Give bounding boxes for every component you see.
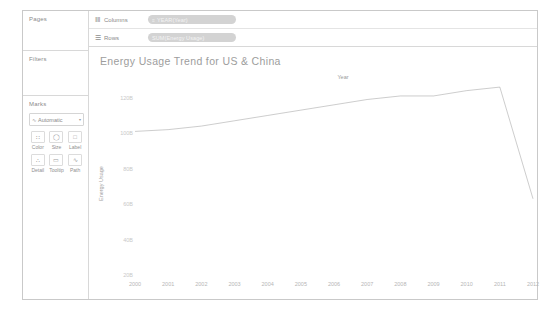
- rows-shelf-label: Rows: [104, 35, 148, 41]
- marks-button-path[interactable]: ∿ Path: [66, 154, 84, 173]
- marks-card-title: Marks: [29, 101, 88, 107]
- pages-shelf[interactable]: Pages: [23, 11, 88, 51]
- marks-button-tooltip[interactable]: ▭ Tooltip: [48, 154, 66, 173]
- marks-button-label[interactable]: □ Label: [66, 131, 84, 150]
- shelf-area: ‖‖ Columns ≡ YEAR(Year) ☰ Rows SUM(Energ…: [89, 11, 537, 47]
- x-axis-tick: 2008: [394, 281, 406, 287]
- marks-button-size-label: Size: [52, 144, 62, 150]
- tooltip-bubble-icon: ▭: [49, 154, 63, 166]
- data-line-series: [135, 87, 533, 199]
- mark-type-dropdown[interactable]: ∿ Automatic ▾: [29, 113, 84, 126]
- x-axis-tick: 2002: [195, 281, 207, 287]
- filters-shelf-title: Filters: [29, 56, 88, 62]
- color-palette-icon: ∷: [31, 131, 45, 143]
- rows-icon: ☰: [95, 34, 104, 42]
- filters-shelf[interactable]: Filters: [23, 51, 88, 96]
- path-line-icon: ∿: [68, 154, 82, 166]
- left-rail: Pages Filters Marks ∿ Automatic ▾ ∷ Colo…: [23, 11, 89, 299]
- columns-shelf-label: Columns: [104, 17, 148, 23]
- x-axis-tick: 2005: [295, 281, 307, 287]
- marks-button-detail-label: Detail: [31, 167, 44, 173]
- x-axis-tick: 2007: [361, 281, 373, 287]
- x-axis-tick: 2006: [328, 281, 340, 287]
- marks-button-detail[interactable]: ∴ Detail: [29, 154, 47, 173]
- x-axis-tick: 2010: [461, 281, 473, 287]
- x-axis-tick: 2012: [527, 281, 539, 287]
- x-axis-tick: 2000: [129, 281, 141, 287]
- rows-shelf[interactable]: ☰ Rows SUM(Energy Usage): [89, 28, 537, 46]
- marks-button-label-label: Label: [69, 144, 81, 150]
- plot-area: [135, 80, 533, 275]
- marks-button-tooltip-label: Tooltip: [49, 167, 63, 173]
- x-axis-tick: 2001: [162, 281, 174, 287]
- mark-type-icon: ∿: [32, 117, 36, 123]
- columns-icon: ‖‖: [95, 16, 104, 23]
- chevron-down-icon: ▾: [79, 117, 81, 122]
- columns-shelf[interactable]: ‖‖ Columns ≡ YEAR(Year): [89, 11, 537, 28]
- x-axis-tick: 2011: [494, 281, 506, 287]
- mark-type-value: Automatic: [38, 117, 79, 123]
- pill-sum-energy-usage-label: SUM(Energy Usage): [152, 35, 204, 41]
- x-axis-tick: 2004: [262, 281, 274, 287]
- marks-button-size[interactable]: ◯ Size: [48, 131, 66, 150]
- y-axis-tick: 20B: [103, 272, 133, 278]
- worksheet-main: ‖‖ Columns ≡ YEAR(Year) ☰ Rows SUM(Energ…: [89, 11, 537, 299]
- y-axis-tick: 80B: [103, 166, 133, 172]
- marks-buttons-grid: ∷ Color ◯ Size □ Label ∴ Detail ▭: [29, 131, 88, 173]
- y-axis-ticks: 120B100B80B60B40B20B: [101, 47, 133, 299]
- pill-date-icon: ≡: [152, 17, 155, 23]
- y-axis-tick: 60B: [103, 201, 133, 207]
- tableau-worksheet-window: Pages Filters Marks ∿ Automatic ▾ ∷ Colo…: [22, 10, 538, 300]
- marks-card: Marks ∿ Automatic ▾ ∷ Color ◯ Size □ Lab…: [23, 96, 88, 299]
- pages-shelf-title: Pages: [29, 16, 88, 22]
- x-axis-tick: 2009: [427, 281, 439, 287]
- pill-year-label: YEAR(Year): [157, 17, 188, 23]
- marks-button-path-label: Path: [70, 167, 80, 173]
- y-axis-tick: 120B: [103, 95, 133, 101]
- y-axis-tick: 40B: [103, 237, 133, 243]
- marks-button-color-label: Color: [32, 144, 44, 150]
- size-circle-icon: ◯: [49, 131, 63, 143]
- detail-icon: ∴: [31, 154, 45, 166]
- line-chart-svg: [135, 80, 533, 275]
- visualization-area: Energy Usage Trend for US & China Year E…: [89, 47, 537, 299]
- y-axis-tick: 100B: [103, 130, 133, 136]
- x-axis-tick: 2003: [228, 281, 240, 287]
- pill-year[interactable]: ≡ YEAR(Year): [148, 15, 236, 24]
- label-tag-icon: □: [68, 131, 82, 143]
- marks-button-color[interactable]: ∷ Color: [29, 131, 47, 150]
- pill-sum-energy-usage[interactable]: SUM(Energy Usage): [148, 33, 236, 42]
